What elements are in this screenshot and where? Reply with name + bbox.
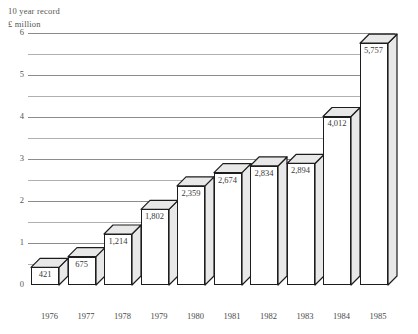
x-axis-tick-label-1976: 1976 [30, 311, 70, 321]
bar-front-face [214, 173, 242, 285]
bar-value-label-1982: 2,834 [250, 168, 278, 178]
x-axis-tick-label-1985: 1985 [358, 311, 398, 321]
y-axis-tick-label-2: 2 [8, 195, 24, 205]
x-axis-tick-label-1978: 1978 [103, 311, 143, 321]
bar-1981: 2,674 [214, 0, 254, 288]
x-axis-tick-label-1977: 1977 [66, 311, 106, 321]
bar-front-face [360, 43, 388, 285]
bar-value-label-1980: 2,359 [177, 188, 205, 198]
bar-value-label-1978: 1,214 [104, 236, 132, 246]
bar-value-label-1977: 675 [68, 259, 96, 269]
x-axis-tick-label-1981: 1981 [212, 311, 252, 321]
bar-front-face [250, 166, 278, 285]
y-axis-tick-label-3: 3 [8, 153, 24, 163]
plot-area: 0123456421197667519771,21419781,80219792… [0, 0, 418, 334]
bar-3d-faces [68, 0, 108, 288]
bar-value-label-1981: 2,674 [214, 175, 242, 185]
x-axis-tick-label-1984: 1984 [322, 311, 362, 321]
bar-value-label-1979: 1,802 [141, 211, 169, 221]
chart-container: 10 year record £ million 012345642119766… [0, 0, 418, 334]
bar-1985: 5,757 [360, 0, 400, 288]
bar-value-label-1976: 421 [31, 269, 59, 279]
bar-1977: 675 [68, 0, 108, 288]
bar-1978: 1,214 [104, 0, 144, 288]
bar-value-label-1984: 4,012 [323, 118, 351, 128]
bar-1984: 4,012 [323, 0, 363, 288]
bar-1980: 2,359 [177, 0, 217, 288]
bar-1979: 1,802 [141, 0, 181, 288]
bar-3d-faces [31, 0, 71, 288]
bar-front-face [323, 117, 351, 286]
y-axis-tick-label-6: 6 [8, 27, 24, 37]
bar-value-label-1983: 2,894 [287, 165, 315, 175]
x-axis-tick-label-1983: 1983 [285, 311, 325, 321]
bar-front-face [177, 186, 205, 285]
y-axis-tick-label-1: 1 [8, 237, 24, 247]
x-axis-tick-label-1982: 1982 [249, 311, 289, 321]
bar-front-face [287, 163, 315, 285]
y-axis-tick-label-5: 5 [8, 69, 24, 79]
bar-1982: 2,834 [250, 0, 290, 288]
y-axis-tick-label-4: 4 [8, 111, 24, 121]
x-axis-tick-label-1980: 1980 [176, 311, 216, 321]
x-axis-tick-label-1979: 1979 [139, 311, 179, 321]
bar-1983: 2,894 [287, 0, 327, 288]
bar-1976: 421 [31, 0, 71, 288]
bar-value-label-1985: 5,757 [360, 45, 388, 55]
y-axis-tick-label-0: 0 [8, 279, 24, 289]
bar-side-face [388, 34, 397, 285]
